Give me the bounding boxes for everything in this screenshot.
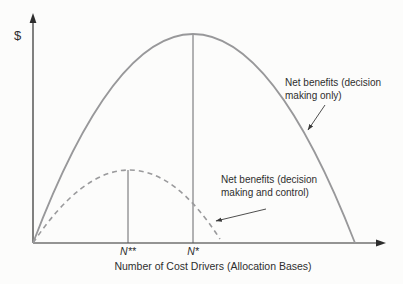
x-tick-n-star: N* <box>187 245 199 258</box>
solid-benefits-curve <box>33 34 355 243</box>
dashed-curve-label: Net benefits (decision making and contro… <box>221 173 343 199</box>
x-axis-label: Number of Cost Drivers (Allocation Bases… <box>33 260 393 273</box>
solid-curve-label-arrow-icon <box>308 105 325 130</box>
x-axis-arrowhead-icon <box>376 240 386 247</box>
plot-canvas <box>0 0 403 284</box>
dashed-curve-label-arrow-icon <box>216 209 266 221</box>
y-axis-label: $ <box>14 29 21 42</box>
solid-curve-label: Net benefits (decision making only) <box>285 76 395 102</box>
x-tick-n-double-star: N** <box>120 245 136 258</box>
net-benefits-chart: $ Net benefits (decision making only) Ne… <box>0 0 403 284</box>
dashed-benefits-curve <box>33 170 220 243</box>
y-axis-arrowhead-icon <box>30 13 37 23</box>
